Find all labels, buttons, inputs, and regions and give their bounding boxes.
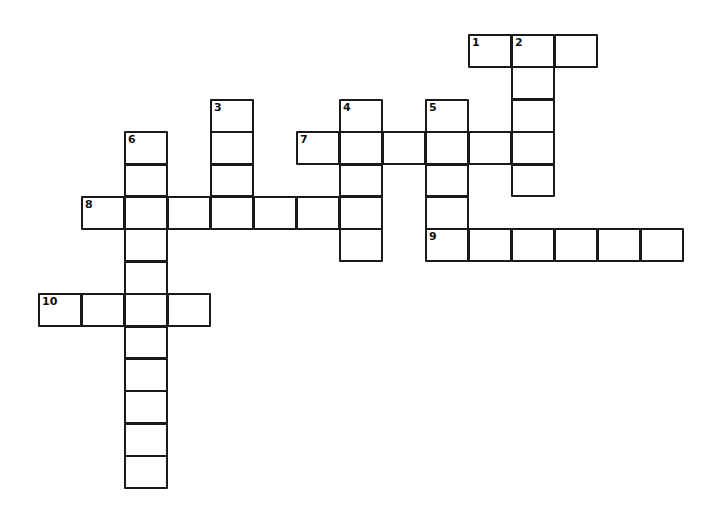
crossword-cell[interactable] [425,196,469,230]
clue-number: 8 [85,198,93,211]
crossword-cell[interactable]: 3 [210,99,254,133]
crossword-cell[interactable] [124,228,168,262]
crossword-cell[interactable] [167,196,211,230]
crossword-cell[interactable] [124,390,168,424]
crossword-cell[interactable] [210,196,254,230]
crossword-cell[interactable] [124,423,168,457]
crossword-cell[interactable] [425,131,469,165]
clue-number: 5 [429,101,437,114]
crossword-cell[interactable] [511,99,555,133]
crossword-cell[interactable] [124,164,168,198]
crossword-cell[interactable] [210,131,254,165]
crossword-cell[interactable] [124,358,168,392]
crossword-cell[interactable] [124,326,168,360]
clue-number: 2 [515,36,523,49]
crossword-cell[interactable]: 10 [38,293,82,327]
crossword-cell[interactable] [468,228,512,262]
clue-number: 3 [214,101,222,114]
crossword-cell[interactable] [597,228,641,262]
clue-number: 10 [42,295,57,308]
crossword-cell[interactable] [554,228,598,262]
clue-number: 7 [300,133,308,146]
crossword-cell[interactable] [253,196,297,230]
clue-number: 9 [429,230,437,243]
crossword-cell[interactable]: 2 [511,34,555,68]
crossword-cell[interactable]: 8 [81,196,125,230]
clue-number: 4 [343,101,351,114]
crossword-cell[interactable] [81,293,125,327]
crossword-cell[interactable] [468,131,512,165]
crossword-cell[interactable]: 1 [468,34,512,68]
crossword-cell[interactable]: 5 [425,99,469,133]
crossword-cell[interactable] [511,131,555,165]
crossword-cell[interactable] [210,164,254,198]
crossword-cell[interactable] [124,455,168,489]
crossword-cell[interactable] [339,164,383,198]
crossword-cell[interactable] [296,196,340,230]
crossword-cell[interactable] [124,293,168,327]
crossword-cell[interactable]: 9 [425,228,469,262]
crossword-cell[interactable] [339,228,383,262]
crossword-cell[interactable] [511,228,555,262]
crossword-grid: 12345967810 [0,0,719,513]
crossword-cell[interactable]: 4 [339,99,383,133]
crossword-cell[interactable]: 6 [124,131,168,165]
crossword-cell[interactable] [339,196,383,230]
crossword-cell[interactable] [425,164,469,198]
crossword-cell[interactable] [511,66,555,100]
clue-number: 6 [128,133,136,146]
crossword-cell[interactable] [167,293,211,327]
clue-number: 1 [472,36,480,49]
crossword-cell[interactable]: 7 [296,131,340,165]
crossword-cell[interactable] [124,261,168,295]
crossword-cell[interactable] [511,164,555,198]
crossword-cell[interactable] [640,228,684,262]
crossword-cell[interactable] [124,196,168,230]
crossword-cell[interactable] [339,131,383,165]
crossword-cell[interactable] [554,34,598,68]
crossword-cell[interactable] [382,131,426,165]
